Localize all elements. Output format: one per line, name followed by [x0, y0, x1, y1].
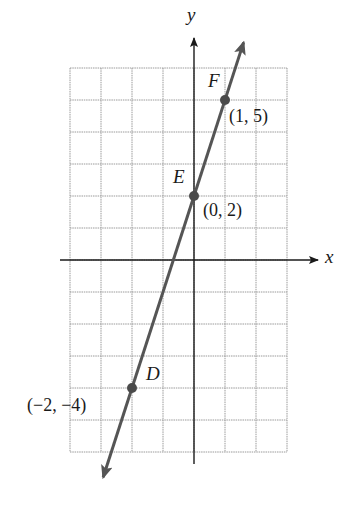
coordinate-plane: [0, 0, 353, 519]
point-label-e: E: [173, 166, 185, 188]
coord-label-d: (−2, −4): [27, 395, 86, 416]
coord-label-e: (0, 2): [203, 200, 242, 221]
point-e: [189, 191, 199, 201]
point-f: [220, 95, 230, 105]
point-d: [127, 383, 137, 393]
y-axis-label: y: [187, 4, 195, 26]
point-label-f: F: [208, 70, 220, 92]
coord-label-f: (1, 5): [229, 106, 268, 127]
x-axis-label: x: [325, 246, 333, 268]
axes: [60, 38, 318, 464]
point-label-d: D: [146, 363, 160, 385]
